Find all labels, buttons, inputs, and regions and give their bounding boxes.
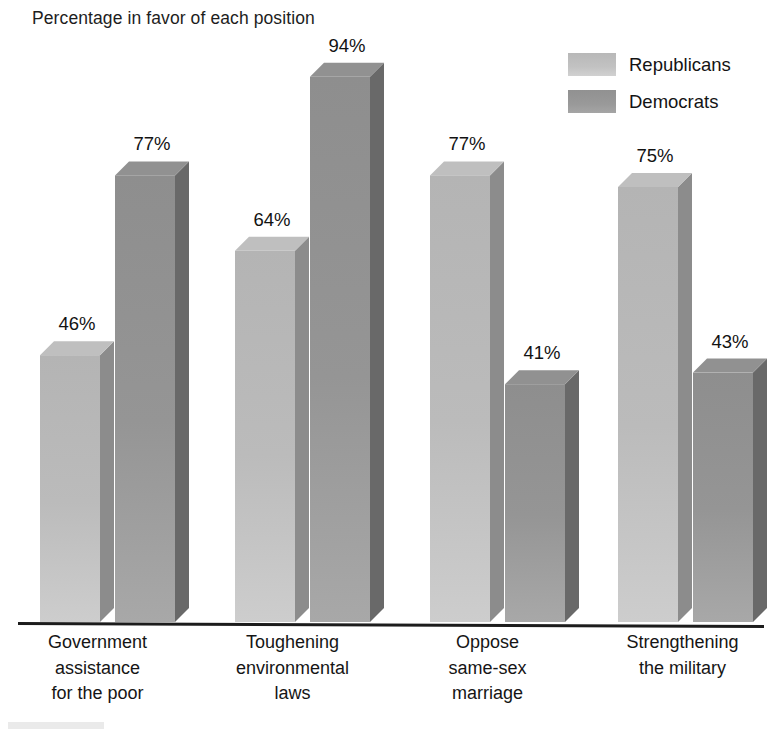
x-axis-label-line: laws <box>195 681 390 707</box>
bar-side-face <box>100 341 114 622</box>
x-axis-label-line: Government <box>0 630 195 656</box>
x-axis-label-line: the military <box>585 656 780 682</box>
x-axis-label-line: same-sex <box>390 656 585 682</box>
bar-value-label: 77% <box>448 133 485 155</box>
bar-side-face <box>490 161 504 622</box>
bar-side-face <box>175 161 189 622</box>
bar-democrats-4 <box>693 373 753 622</box>
x-axis-label-line: marriage <box>390 681 585 707</box>
bar-value-label: 75% <box>636 145 673 167</box>
x-axis-category-labels: Governmentassistancefor the poorTougheni… <box>0 630 780 707</box>
bar-republicans-3 <box>430 175 490 622</box>
legend-label-republicans: Republicans <box>629 54 731 76</box>
legend-label-democrats: Democrats <box>629 91 718 113</box>
bar-side-face <box>565 370 579 622</box>
chart-legend: Republicans Democrats <box>568 46 778 120</box>
bar-value-label: 41% <box>523 342 560 364</box>
x-axis-label-line: Strengthening <box>585 630 780 656</box>
x-axis-label-1: Governmentassistancefor the poor <box>0 630 195 707</box>
bar-democrats-1 <box>115 175 175 622</box>
bar-chart: Percentage in favor of each position Rep… <box>0 0 780 730</box>
x-axis-label-line: Oppose <box>390 630 585 656</box>
x-axis-label-line: Toughening <box>195 630 390 656</box>
legend-item-republicans: Republicans <box>568 46 778 83</box>
legend-item-democrats: Democrats <box>568 83 778 120</box>
x-axis-label-3: Opposesame-sexmarriage <box>390 630 585 707</box>
bar-republicans-2 <box>235 251 295 622</box>
bar-republicans-4 <box>618 187 678 622</box>
bar-side-face <box>295 237 309 622</box>
bar-side-face <box>370 63 384 622</box>
x-axis-label-2: Tougheningenvironmentallaws <box>195 630 390 707</box>
bar-value-label: 94% <box>328 35 365 57</box>
page-edge-artifact <box>8 722 104 729</box>
bar-value-label: 77% <box>133 133 170 155</box>
bar-side-face <box>753 359 767 622</box>
bar-value-label: 46% <box>58 313 95 335</box>
x-axis-label-line: environmental <box>195 656 390 682</box>
x-axis-label-line: for the poor <box>0 681 195 707</box>
legend-swatch-republicans <box>568 53 616 76</box>
x-axis-line <box>18 624 764 627</box>
x-axis-label-line: assistance <box>0 656 195 682</box>
bar-value-label: 43% <box>711 331 748 353</box>
bar-side-face <box>678 173 692 622</box>
bar-republicans-1 <box>40 355 100 622</box>
bar-value-label: 64% <box>253 209 290 231</box>
bar-democrats-3 <box>505 384 565 622</box>
bar-democrats-2 <box>310 77 370 622</box>
legend-swatch-democrats <box>568 90 616 113</box>
x-axis-label-4: Strengtheningthe military <box>585 630 780 707</box>
